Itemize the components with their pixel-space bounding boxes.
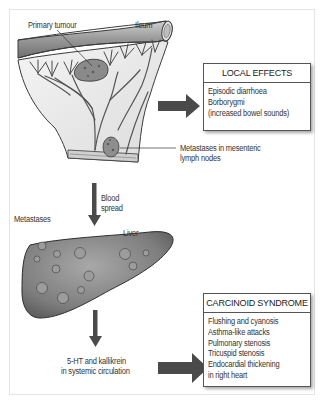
local-effects-item: Episodic diarrhoea — [208, 86, 294, 97]
label-circulation-1: 5-HT and kallikrein — [67, 356, 126, 366]
label-primary-tumour: Primary tumour — [28, 20, 77, 30]
carcinoid-syndrome-box: CARCINOID SYNDROME Flushing and cyanosis… — [203, 293, 311, 387]
carcinoid-syndrome-item: Endocardial thickening — [208, 359, 294, 370]
arrow-right-carcinoid — [158, 353, 208, 383]
carcinoid-syndrome-item: Flushing and cyanosis — [208, 316, 294, 327]
label-liver: Liver — [123, 228, 138, 238]
label-blood-spread-1: Blood — [101, 193, 119, 203]
label-mesenteric-metastases-2: lymph nodes — [180, 153, 220, 163]
label-metastases: Metastases — [14, 214, 50, 224]
carcinoid-syndrome-item: in right heart — [208, 370, 294, 381]
mesentery-illustration — [18, 40, 168, 162]
local-effects-item: Borborygmi — [208, 97, 294, 108]
local-effects-box: LOCAL EFFECTS Episodic diarrhoea Borbory… — [203, 63, 311, 131]
label-ileum: Ileum — [135, 20, 152, 30]
label-circulation-2: in systemic circulation — [61, 366, 130, 376]
carcinoid-syndrome-item: Tricuspid stenosis — [208, 348, 294, 359]
carcinoid-syndrome-item: Pulmonary stenosis — [208, 338, 294, 349]
label-blood-spread-2: spread — [101, 203, 123, 213]
liver-illustration — [22, 232, 173, 318]
carcinoid-syndrome-item: Asthma-like attacks — [208, 327, 294, 338]
local-effects-item: (increased bowel sounds) — [208, 108, 294, 119]
arrow-right-local-effects — [158, 94, 200, 118]
label-mesenteric-metastases-1: Metastases in mesenteric — [180, 143, 261, 153]
carcinoid-syndrome-title: CARCINOID SYNDROME — [204, 294, 310, 313]
local-effects-title: LOCAL EFFECTS — [204, 64, 310, 83]
